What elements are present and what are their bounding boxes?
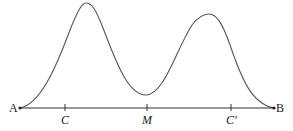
endpoint-a-dot bbox=[18, 106, 21, 109]
endpoint-label-a: A bbox=[9, 102, 18, 114]
bimodal-curve bbox=[20, 3, 274, 108]
tick-label-m: M bbox=[142, 114, 152, 126]
tick-label-c-prime: C′ bbox=[226, 114, 237, 126]
tick-label-c: C bbox=[61, 114, 69, 126]
diagram-canvas bbox=[0, 0, 293, 131]
endpoint-label-b: B bbox=[276, 102, 284, 114]
